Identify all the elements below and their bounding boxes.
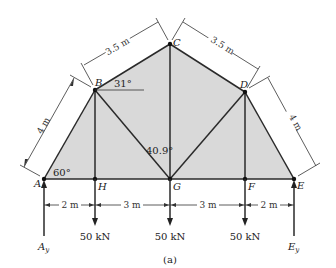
reaction-arrow-A xyxy=(41,180,47,236)
truss-diagram: A H G F E B C D 31° 60° 40.9° 4 m 3.5 m … xyxy=(0,0,336,268)
load-label-G: 50 kN xyxy=(155,231,186,242)
node-label-E: E xyxy=(296,180,305,191)
node-label-H: H xyxy=(97,181,107,192)
node-label-D: D xyxy=(239,79,248,90)
node-label-A: A xyxy=(33,178,41,189)
dimension-FE-label: 2 m xyxy=(260,200,278,210)
node-label-B: B xyxy=(94,77,102,88)
node-label-C: C xyxy=(173,37,181,48)
dimension-horizontal xyxy=(44,203,294,207)
dimension-GF-label: 3 m xyxy=(199,200,217,210)
dimension-AH-label: 2 m xyxy=(61,200,79,210)
reaction-label-A: Ay xyxy=(37,241,50,254)
node-label-G: G xyxy=(173,181,181,192)
dimension-AB-label: 4 m xyxy=(35,115,52,135)
joint-D xyxy=(243,90,247,94)
joint-C xyxy=(168,42,172,46)
load-label-F: 50 kN xyxy=(230,231,261,242)
dimension-HG-label: 3 m xyxy=(123,200,141,210)
dimension-BC-label: 3.5 m xyxy=(104,35,132,57)
angle-B: 31° xyxy=(114,78,132,89)
load-label-H: 50 kN xyxy=(80,231,111,242)
figure-caption: (a) xyxy=(163,254,177,265)
reaction-label-E: Ey xyxy=(287,241,300,254)
angle-G: 40.9° xyxy=(146,145,173,156)
angle-A: 60° xyxy=(53,167,71,178)
node-label-F: F xyxy=(247,181,256,192)
